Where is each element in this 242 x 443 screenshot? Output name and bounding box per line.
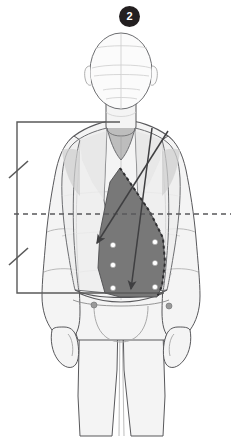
step-badge: 2	[119, 6, 140, 27]
hip-button-right	[166, 303, 172, 309]
bracket-lower-tick	[9, 248, 28, 265]
panel-button	[110, 242, 115, 247]
ear-right	[151, 66, 157, 85]
panel-button	[152, 260, 157, 265]
hand-left	[51, 327, 78, 367]
hip-button-left	[91, 302, 97, 308]
panel-button	[152, 239, 157, 244]
ear-left	[85, 66, 91, 85]
bracket-upper-tick	[9, 161, 28, 178]
figure-root: 2	[0, 0, 242, 443]
garment-technical-illustration	[0, 0, 242, 443]
hand-right	[163, 327, 190, 367]
panel-button	[152, 284, 157, 289]
panel-button	[110, 285, 115, 290]
panel-button	[110, 262, 115, 267]
